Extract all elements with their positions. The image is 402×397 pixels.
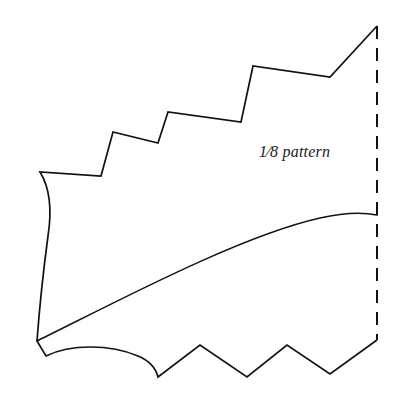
fraction-numerator: 1 (259, 143, 267, 160)
fraction-denominator: 8 (270, 143, 278, 160)
drawing-background (0, 0, 402, 397)
pattern-drawing (0, 0, 402, 397)
pattern-word: pattern (282, 143, 330, 160)
pattern-fraction-label: 1⁄8 pattern (259, 143, 330, 161)
fraction-glyph: 1⁄8 (259, 143, 278, 160)
pattern-figure: 1⁄8 pattern (0, 0, 402, 397)
